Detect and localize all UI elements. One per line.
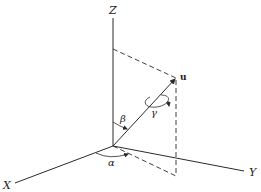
z-axis-label: Z [108, 4, 117, 17]
x-axis-label: X [2, 179, 12, 192]
vector-u-label: u [180, 72, 187, 82]
x-axis [15, 146, 113, 183]
gamma-label: γ [151, 107, 157, 118]
y-axis-label: Y [249, 166, 258, 179]
y-axis [113, 146, 244, 171]
alpha-label: α [108, 157, 115, 168]
euler-angle-diagram: Z X Y u β α γ [0, 0, 261, 192]
z-projection-line [113, 49, 176, 78]
gamma-rotation-arrow [168, 101, 169, 106]
beta-label: β [119, 113, 126, 124]
gamma-rotation-arc [145, 95, 168, 107]
xy-projection-line [113, 146, 176, 176]
